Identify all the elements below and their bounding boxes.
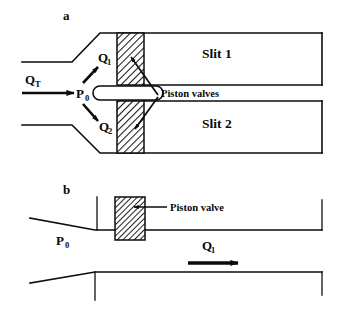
panel-a-lower-outer-wall <box>22 125 322 153</box>
flow-label-b-sub: 1 <box>211 245 215 255</box>
pressure-label-a-sub: 0 <box>85 93 89 103</box>
panel-b-label: b <box>63 182 70 197</box>
branch-arrow-q1 <box>83 67 98 83</box>
piston-valve-callout-b: Piston valve <box>170 202 224 213</box>
inlet-flow-label: Q T <box>25 72 41 89</box>
slit-2-label: Slit 2 <box>202 116 232 131</box>
panel-b-upper-wall <box>30 218 322 230</box>
pressure-label-a-base: P <box>76 86 84 101</box>
figure-root: a Q T <box>0 0 344 309</box>
panel-b: b Piston valve P 0 Q 1 <box>30 182 322 300</box>
panel-a-upper-outer-wall <box>22 33 322 62</box>
pressure-label-b-sub: 0 <box>65 240 69 250</box>
branch-arrow-q2 <box>83 104 98 121</box>
piston-valve-block-lower <box>117 101 144 153</box>
schematic-svg: a Q T <box>0 0 344 309</box>
inlet-flow-label-base: Q <box>25 72 35 87</box>
pressure-label-b-base: P <box>56 233 64 248</box>
piston-valves-callout: Piston valves <box>161 88 219 99</box>
branch-label-q2: Q 2 <box>99 119 112 136</box>
panel-b-lower-wall <box>30 272 322 283</box>
branch-label-q1: Q 1 <box>98 50 111 67</box>
flow-label-b: Q 1 <box>202 238 215 255</box>
branch-label-q1-sub: 1 <box>107 57 111 67</box>
pressure-label-b: P 0 <box>56 233 69 250</box>
branch-label-q2-sub: 2 <box>108 126 112 136</box>
pressure-label-a: P 0 <box>76 86 89 103</box>
slit-1-label: Slit 1 <box>202 46 232 61</box>
panel-a: a Q T <box>22 8 322 153</box>
inlet-flow-label-sub: T <box>35 79 41 89</box>
piston-valve-block-b <box>115 197 145 240</box>
panel-a-label: a <box>63 8 70 23</box>
piston-valve-block-upper <box>117 33 144 85</box>
